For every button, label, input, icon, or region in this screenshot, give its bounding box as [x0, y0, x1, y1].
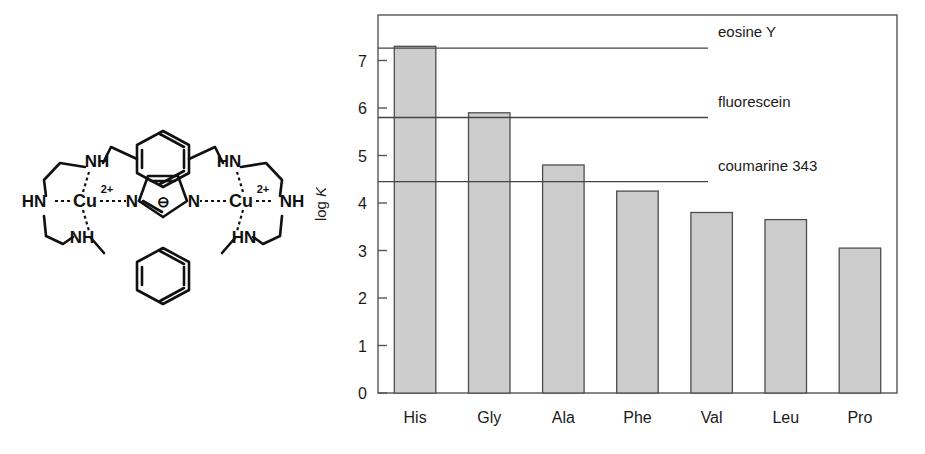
bar-ala[interactable] — [543, 165, 585, 393]
bottom-benzene-ring — [137, 248, 189, 304]
x-axis-category-label: Val — [701, 409, 723, 426]
top-benzene-ring — [137, 131, 189, 187]
atom-label-cu-left: Cu — [73, 191, 97, 211]
reference-label-fluorescein: fluorescein — [718, 93, 791, 110]
atom-label-hn-upper-right: HN — [217, 152, 242, 171]
atom-label-hn-lower-right: HN — [232, 228, 257, 247]
right-lower-chain — [253, 216, 282, 244]
x-axis-category-label: Ala — [552, 409, 575, 426]
x-axis-category-label: Phe — [623, 409, 652, 426]
bar-pro[interactable] — [839, 248, 881, 393]
atom-label-hn-left: HN — [22, 192, 47, 211]
atom-label-n-imidazolate-left: N — [126, 192, 138, 211]
y-axis-title-prefix: log — [312, 197, 329, 221]
y-axis-tick-label: 7 — [358, 53, 367, 70]
y-axis-title: log K — [312, 186, 329, 221]
cu-right-hn-upper-bond — [237, 172, 243, 192]
y-axis-tick-label: 3 — [358, 243, 367, 260]
y-axis-tick-label: 2 — [358, 290, 367, 307]
figure-root: HN NH NH Cu 2+ N ⊖ N Cu 2+ NH HN HN 0123… — [0, 0, 925, 454]
left-lower-chain — [44, 216, 73, 244]
bar-chart-panel: 01234567 eosine Yfluoresceincoumarine 34… — [300, 0, 925, 454]
structure-bond-group — [44, 131, 282, 304]
y-axis-tick-label: 4 — [358, 195, 367, 212]
atom-label-group: HN NH NH Cu 2+ N ⊖ N Cu 2+ NH HN HN — [22, 152, 305, 247]
log-k-bar-chart: 01234567 eosine Yfluoresceincoumarine 34… — [300, 0, 925, 454]
atom-label-n-imidazolate-right: N — [188, 192, 200, 211]
bar-phe[interactable] — [617, 191, 659, 393]
y-axis-tick-label: 6 — [358, 100, 367, 117]
bar-gly[interactable] — [469, 113, 511, 393]
atom-label-imidazolate-charge: ⊖ — [157, 193, 170, 210]
y-axis-tick-label: 1 — [358, 338, 367, 355]
x-axis-category-label: Gly — [477, 409, 501, 426]
y-axis-tick-label: 0 — [358, 385, 367, 402]
cu-left-nh-upper-bond — [83, 172, 89, 192]
chemical-structure-panel: HN NH NH Cu 2+ N ⊖ N Cu 2+ NH HN HN — [0, 0, 340, 454]
y-axis-title-italic: K — [312, 186, 329, 197]
atom-label-cu-left-charge: 2+ — [101, 183, 114, 195]
bar-his[interactable] — [394, 46, 436, 393]
bar-val[interactable] — [691, 213, 733, 394]
reference-label-coumarine-343: coumarine 343 — [718, 157, 817, 174]
atom-label-cu-right: Cu — [229, 191, 253, 211]
atom-label-cu-right-charge: 2+ — [257, 183, 270, 195]
atom-label-nh-upper-left: NH — [85, 152, 110, 171]
x-axis-category-label: Pro — [847, 409, 872, 426]
x-axis-category-label: Leu — [772, 409, 799, 426]
reference-label-eosine-y: eosine Y — [718, 23, 776, 40]
chemical-structure-diagram: HN NH NH Cu 2+ N ⊖ N Cu 2+ NH HN HN — [8, 100, 318, 340]
x-axis-category-label: His — [404, 409, 427, 426]
bar-leu[interactable] — [765, 220, 807, 393]
category-label-group: HisGlyAlaPheValLeuPro — [404, 409, 873, 426]
atom-label-nh-lower-left: NH — [70, 228, 95, 247]
svg-text:log K: log K — [312, 186, 329, 221]
y-axis-tick-label: 5 — [358, 148, 367, 165]
